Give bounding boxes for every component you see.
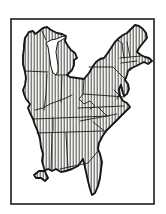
eastern-us-landmass <box>23 25 152 195</box>
figure-page <box>0 0 166 214</box>
eastern-us-map-figure <box>0 0 166 214</box>
